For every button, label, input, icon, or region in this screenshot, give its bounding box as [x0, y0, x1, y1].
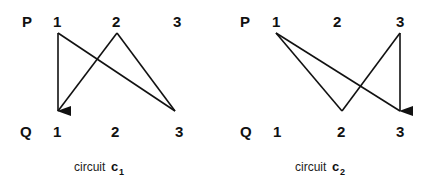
node-p3: 3: [396, 13, 404, 30]
node-p2: 2: [333, 13, 341, 30]
row-label-q: Q: [240, 123, 252, 140]
caption-symbol: c: [332, 159, 339, 174]
caption-subscript: 2: [340, 167, 345, 177]
node-q2: 2: [337, 123, 345, 140]
node-p2: 2: [112, 13, 120, 30]
edge-p1-q3: [276, 33, 400, 111]
diagram-c2: P 1 2 3 Q 1 2 3 circuit c 2: [240, 13, 404, 177]
node-p3: 3: [173, 13, 181, 30]
node-p1: 1: [272, 13, 280, 30]
caption-symbol: c: [111, 159, 118, 174]
node-p1: 1: [53, 13, 61, 30]
edge-q2-p3: [342, 33, 400, 111]
row-label-p: P: [240, 13, 250, 30]
caption-subscript: 1: [119, 167, 124, 177]
diagram-c1: P 1 2 3 Q 1 2 3 circuit c 1: [20, 13, 183, 177]
caption-text: circuit: [74, 160, 106, 174]
edge-p1-q2: [276, 33, 342, 111]
caption-text: circuit: [295, 160, 327, 174]
edge-p2-q1: [58, 33, 117, 111]
node-q3: 3: [175, 123, 183, 140]
circuit-diagrams: P 1 2 3 Q 1 2 3 circuit c 1 P 1 2 3 Q 1 …: [0, 0, 428, 186]
row-label-p: P: [22, 13, 32, 30]
row-label-q: Q: [20, 123, 32, 140]
node-q1: 1: [53, 123, 61, 140]
edge-p1-q3: [58, 33, 175, 111]
edge-q3-p2: [117, 33, 175, 111]
node-q1: 1: [273, 123, 281, 140]
node-q2: 2: [111, 123, 119, 140]
node-q3: 3: [396, 123, 404, 140]
